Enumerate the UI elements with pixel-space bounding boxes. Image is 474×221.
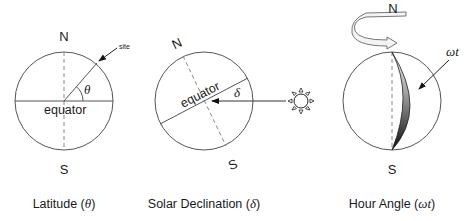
delta-symbol: δ [234,85,241,100]
latitude-angle-arc [77,87,84,101]
north-label: N [388,1,397,16]
hour-angle-caption: Hour Angle (ωt) [349,196,435,211]
site-pointer-arrow [99,48,117,61]
south-label: S [226,156,240,173]
south-label: S [388,162,397,177]
declination-caption: Solar Declination (δ) [148,196,260,211]
omega-t-pointer-arrow [419,60,449,89]
north-label: N [59,29,68,44]
sun-icon [288,88,314,114]
theta-symbol: θ [84,82,91,97]
equator-label: equator [44,103,86,117]
site-radius-line [64,63,97,101]
declination-panel: equator δ N S Solar Declination (δ) [148,35,314,211]
celestial-angles-diagram: site θ equator N S Latitude (θ) equator … [0,0,474,221]
site-label: site [119,43,130,50]
north-label: N [169,35,184,53]
latitude-panel: site θ equator N S Latitude (θ) [15,29,130,211]
latitude-caption: Latitude (θ) [33,196,96,211]
omega-t-symbol: ωt [446,44,459,59]
meridian-crescent [392,52,410,150]
hour-angle-panel: ωt N S Hour Angle (ωt) [343,1,459,211]
rotation-arrow-icon [352,12,406,49]
south-label: S [60,162,69,177]
